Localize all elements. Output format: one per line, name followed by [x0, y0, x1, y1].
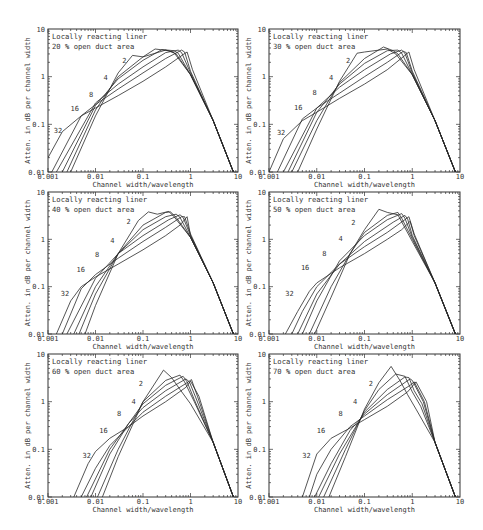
annotation-liner-type: Locally reacting liner	[273, 32, 369, 41]
y-tick-label: 0.01	[28, 169, 45, 177]
curve-label-8: 8	[339, 410, 343, 418]
x-axis-label: Channel width/wavelength	[92, 506, 193, 514]
annotation-open-area: 60 % open duct area	[52, 367, 134, 376]
x-tick-label: 0.1	[358, 335, 371, 343]
annotation-open-area: 40 % open duct area	[52, 205, 134, 214]
x-tick-label: 1	[410, 498, 414, 506]
y-tick-label: 10	[258, 189, 266, 197]
y-tick-label: 0.1	[253, 121, 266, 129]
y-tick-label: 10	[37, 351, 45, 359]
curve-ratio-8	[283, 50, 455, 172]
curve-label-8: 8	[95, 251, 99, 259]
chart-panel-1: 0.0010.010.11100.010.1110Channel width/w…	[24, 26, 242, 190]
x-tick-label: 1	[188, 335, 192, 343]
annotation-liner-type: Locally reacting liner	[52, 195, 148, 204]
y-tick-label: 0.01	[249, 169, 266, 177]
x-tick-label: 0.1	[137, 498, 150, 506]
curve-ratio-32	[285, 221, 455, 334]
y-tick-label: 0.1	[32, 446, 45, 454]
curve-label-16: 16	[317, 427, 325, 435]
x-axis-label: Channel width/wavelength	[92, 181, 193, 189]
curve-label-8: 8	[313, 89, 317, 97]
curve-label-2: 2	[351, 219, 355, 227]
x-axis-label: Channel width/wavelength	[314, 506, 415, 514]
curve-label-2: 2	[139, 380, 143, 388]
y-tick-label: 1	[262, 236, 266, 244]
x-axis-label: Channel width/wavelength	[314, 181, 415, 189]
curve-ratio-2	[98, 375, 234, 497]
annotation-open-area: 30 % open duct area	[273, 42, 355, 51]
annotation-liner-type: Locally reacting liner	[52, 32, 148, 41]
figure-canvas: 0.0010.010.11100.010.1110Channel width/w…	[0, 0, 483, 530]
curve-label-32: 32	[54, 127, 62, 135]
curve-label-4: 4	[329, 74, 333, 82]
curve-label-8: 8	[322, 250, 326, 258]
curve-label-32: 32	[82, 452, 90, 460]
x-tick-label: 0.01	[308, 173, 325, 181]
chart-panel-6: 0.0010.010.11100.010.1110Channel width/w…	[245, 351, 464, 515]
curve-ratio-32	[74, 381, 234, 497]
curve-ratio-16	[62, 217, 233, 334]
x-tick-label: 10	[456, 173, 464, 181]
curve-label-16: 16	[99, 427, 107, 435]
curve-label-8: 8	[117, 410, 121, 418]
y-tick-label: 1	[262, 398, 266, 406]
chart-panel-3: 0.0010.010.11100.010.1110Channel width/w…	[24, 189, 242, 352]
curve-label-16: 16	[77, 266, 85, 274]
y-tick-label: 10	[37, 189, 45, 197]
y-tick-label: 0.01	[28, 494, 45, 502]
x-tick-label: 10	[234, 498, 242, 506]
curves	[74, 370, 234, 497]
y-tick-label: 0.01	[249, 494, 266, 502]
y-tick-label: 0.1	[253, 446, 266, 454]
curve-label-2: 2	[369, 380, 373, 388]
curve-label-8: 8	[89, 91, 93, 99]
curve-ratio-16	[277, 51, 455, 172]
annotation-open-area: 20 % open duct area	[52, 42, 134, 51]
y-tick-label: 1	[41, 398, 45, 406]
curve-label-16: 16	[71, 105, 79, 113]
y-tick-label: 1	[262, 73, 266, 81]
x-tick-label: 0.1	[358, 498, 371, 506]
y-tick-label: 0.01	[28, 331, 45, 339]
x-tick-label: 10	[456, 335, 464, 343]
y-tick-label: 10	[37, 26, 45, 34]
annotation-liner-type: Locally reacting liner	[52, 357, 148, 366]
x-tick-label: 0.01	[308, 335, 325, 343]
y-tick-label: 0.1	[253, 283, 266, 291]
y-axis-label: Atten. in dB per channel width	[24, 37, 32, 163]
annotation-open-area: 50 % open duct area	[273, 205, 355, 214]
annotation-liner-type: Locally reacting liner	[273, 195, 369, 204]
x-tick-label: 0.1	[137, 335, 150, 343]
curve-label-4: 4	[110, 237, 114, 245]
curve-label-4: 4	[353, 398, 357, 406]
y-tick-label: 0.01	[249, 331, 266, 339]
x-tick-label: 0.01	[87, 173, 104, 181]
y-tick-label: 1	[41, 236, 45, 244]
curve-ratio-2	[324, 374, 456, 497]
x-tick-label: 1	[188, 173, 192, 181]
x-axis-label: Channel width/wavelength	[92, 343, 193, 351]
curve-label-4: 4	[131, 398, 135, 406]
y-tick-label: 0.1	[32, 121, 45, 129]
chart-panel-4: 0.0010.010.11100.010.1110Channel width/w…	[245, 189, 464, 352]
x-axis-label: Channel width/wavelength	[314, 343, 415, 351]
annotation-liner-type: Locally reacting liner	[273, 357, 369, 366]
curve-label-2: 2	[346, 57, 350, 65]
curve-label-16: 16	[301, 264, 309, 272]
curve-ratio-32	[302, 382, 455, 497]
y-axis-label: Atten. in dB per channel width	[245, 200, 253, 326]
x-tick-label: 10	[456, 498, 464, 506]
curve-label-16: 16	[294, 104, 302, 112]
curve-label-32: 32	[302, 452, 310, 460]
y-axis-label: Atten. in dB per channel width	[24, 200, 32, 326]
chart-panel-5: 0.0010.010.11100.010.1110Channel width/w…	[24, 351, 242, 515]
x-tick-label: 0.1	[137, 173, 150, 181]
y-axis-label: Atten. in dB per channel width	[245, 362, 253, 488]
curve-ratio-1	[298, 49, 456, 172]
y-tick-label: 0.1	[32, 283, 45, 291]
annotation-open-area: 70 % open duct area	[273, 367, 355, 376]
y-tick-label: 1	[41, 73, 45, 81]
x-tick-label: 0.01	[308, 498, 325, 506]
y-axis-label: Atten. in dB per channel width	[24, 362, 32, 488]
